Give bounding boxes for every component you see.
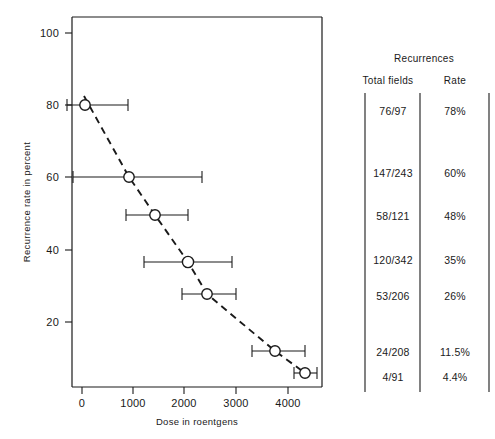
table-header-recurrences: Recurrences — [394, 53, 454, 64]
cell-total-fields: 58/121 — [376, 210, 409, 222]
data-point-group-1 — [67, 99, 128, 111]
figure-container: 100 80 60 40 20 0 1000 2000 3000 4000 Do… — [0, 0, 495, 439]
y-axis-ticks — [65, 33, 72, 322]
data-series — [67, 99, 317, 379]
table-row: 58/121 48% — [376, 210, 465, 222]
data-marker-3 — [150, 210, 160, 220]
dose-response-chart: 100 80 60 40 20 0 1000 2000 3000 4000 Do… — [0, 0, 495, 439]
data-marker-6 — [270, 346, 280, 356]
cell-rate: 4.4% — [443, 371, 468, 383]
y-tick-label-60: 60 — [46, 171, 59, 183]
x-axis-tick-labels: 0 1000 2000 3000 4000 — [79, 397, 301, 409]
cell-rate: 60% — [444, 167, 466, 179]
plot-frame — [72, 17, 322, 387]
cell-total-fields: 120/342 — [373, 254, 412, 266]
cell-rate: 26% — [444, 290, 466, 302]
data-point-group-7 — [294, 367, 317, 379]
recurrences-table: Recurrences Total fields Rate 76/97 78% … — [363, 53, 489, 392]
cell-total-fields: 147/243 — [373, 167, 412, 179]
table-column-header-total-fields: Total fields — [363, 75, 414, 86]
data-marker-4 — [182, 256, 193, 267]
table-column-header-rate: Rate — [444, 75, 466, 86]
y-tick-label-80: 80 — [46, 99, 59, 111]
table-row: 53/206 26% — [376, 290, 465, 302]
trend-line — [84, 96, 305, 373]
data-point-group-5 — [182, 288, 236, 300]
data-point-group-3 — [126, 209, 188, 221]
cell-total-fields: 24/208 — [376, 346, 409, 358]
table-row: 4/91 4.4% — [382, 371, 467, 383]
x-tick-label-3000: 3000 — [223, 397, 248, 409]
cell-total-fields: 76/97 — [379, 105, 406, 117]
cell-rate: 48% — [444, 210, 466, 222]
y-tick-label-100: 100 — [40, 27, 59, 39]
data-marker-7 — [300, 368, 310, 378]
cell-rate: 78% — [444, 105, 466, 117]
data-point-group-4 — [144, 256, 232, 268]
table-row: 76/97 78% — [379, 105, 465, 117]
cell-rate: 11.5% — [440, 346, 470, 358]
data-marker-2 — [124, 172, 134, 182]
x-axis-title: Dose in roentgens — [156, 416, 238, 427]
x-tick-label-1000: 1000 — [120, 397, 145, 409]
x-tick-label-0: 0 — [79, 397, 85, 409]
data-point-group-2 — [73, 171, 202, 183]
x-tick-label-4000: 4000 — [275, 397, 300, 409]
cell-total-fields: 53/206 — [376, 290, 409, 302]
cell-total-fields: 4/91 — [382, 371, 403, 383]
data-marker-5 — [202, 289, 212, 299]
data-point-group-6 — [252, 345, 305, 357]
cell-rate: 35% — [444, 254, 466, 266]
y-axis-title: Recurrence rate in percent — [21, 142, 32, 262]
x-tick-label-2000: 2000 — [171, 397, 196, 409]
x-axis-ticks — [82, 387, 288, 394]
table-row: 24/208 11.5% — [376, 346, 470, 358]
y-tick-label-40: 40 — [46, 244, 59, 256]
data-marker-1 — [80, 100, 90, 110]
y-axis-tick-labels: 100 80 60 40 20 — [40, 27, 59, 328]
y-tick-label-20: 20 — [46, 316, 59, 328]
